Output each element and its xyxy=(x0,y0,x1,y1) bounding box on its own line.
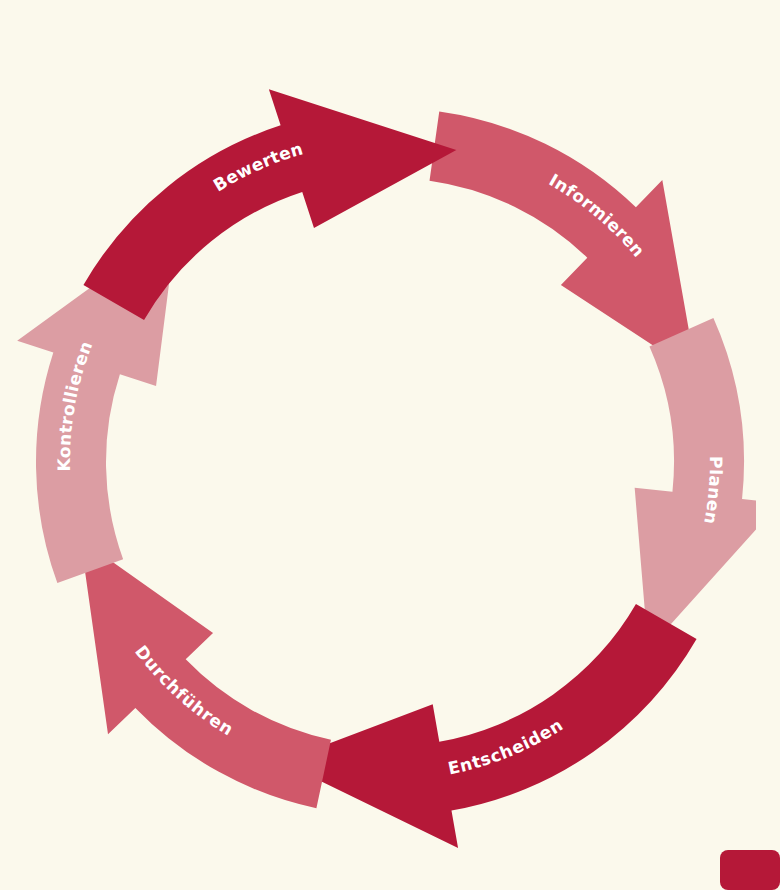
arrow-planen xyxy=(635,318,756,649)
arrow-entscheiden xyxy=(281,604,697,848)
arrow-bewerten xyxy=(83,89,456,320)
arrow-durchfuehren xyxy=(80,539,330,808)
arrow-informieren xyxy=(430,111,697,374)
page-corner-tab xyxy=(720,850,780,890)
cycle-arrows xyxy=(17,89,756,848)
